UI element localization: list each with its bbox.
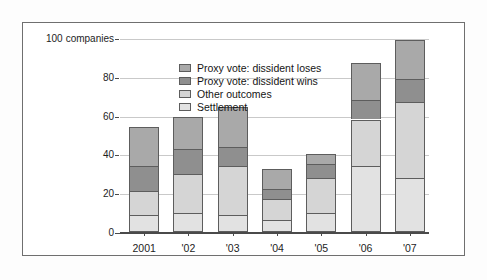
y-axis-tick-label-100: 100companies [46,34,114,44]
bar-segment[interactable] [262,189,292,199]
gridline-0 [119,233,429,234]
chart-legend: Proxy vote: dissident losesProxy vote: d… [179,62,321,114]
legend-item[interactable]: Settlement [179,101,321,113]
bar-segment[interactable] [173,213,203,232]
bar-segment[interactable] [262,220,292,232]
bar-segment[interactable] [262,199,292,220]
bar-segment[interactable] [395,79,425,102]
bar-segment[interactable] [129,215,159,232]
bar-segment[interactable] [173,117,203,149]
y-axis-tick-label-60: 60 [103,112,114,122]
x-axis-tick-label-07: '07 [383,243,437,254]
legend-swatch-icon [179,64,191,72]
y-axis-unit-label: companies [66,33,114,44]
gridline-40 [119,155,429,156]
y-axis-tick-label-80: 80 [103,73,114,83]
bar-segment[interactable] [173,149,203,174]
legend-item-label: Settlement [197,102,247,113]
bar-segment[interactable] [129,166,159,191]
bar-segment[interactable] [262,169,292,189]
legend-item[interactable]: Proxy vote: dissident loses [179,62,321,74]
y-axis-tick-label-40: 40 [103,150,114,160]
bar-segment[interactable] [351,166,381,232]
bar-segment[interactable] [218,215,248,232]
bar-segment[interactable] [129,191,159,214]
bar-segment[interactable] [218,166,248,215]
legend-item[interactable]: Other outcomes [179,88,321,100]
bar-segment[interactable] [306,154,336,164]
bar-segment[interactable] [351,63,381,100]
chart-frame: 020406080100companies 2001'02'03'04'05'0… [22,22,465,256]
bar-segment[interactable] [351,100,381,119]
y-axis-tick-label-20: 20 [103,189,114,199]
legend-item[interactable]: Proxy vote: dissident wins [179,75,321,87]
legend-item-label: Proxy vote: dissident wins [197,76,318,87]
bar-segment[interactable] [395,40,425,79]
y-axis-tick-label-0: 0 [108,228,114,238]
bar-segment[interactable] [306,213,336,232]
page-root: 020406080100companies 2001'02'03'04'05'0… [0,0,487,280]
legend-swatch-icon [179,103,191,111]
legend-swatch-icon [179,90,191,98]
bar-segment[interactable] [218,147,248,166]
gridline-60 [119,117,429,118]
bar-segment[interactable] [306,178,336,213]
bar-segment[interactable] [173,174,203,213]
y-axis-tickmark-0 [115,233,119,234]
bar-segment[interactable] [395,178,425,232]
bar-segment[interactable] [395,102,425,178]
legend-swatch-icon [179,77,191,85]
legend-item-label: Other outcomes [197,89,272,100]
bar-segment[interactable] [129,127,159,166]
y-axis-line [119,39,120,233]
bar-segment[interactable] [306,164,336,178]
legend-item-label: Proxy vote: dissident loses [197,63,321,74]
bar-segment[interactable] [351,120,381,167]
gridline-100 [119,39,429,40]
x-axis-line [119,232,429,233]
